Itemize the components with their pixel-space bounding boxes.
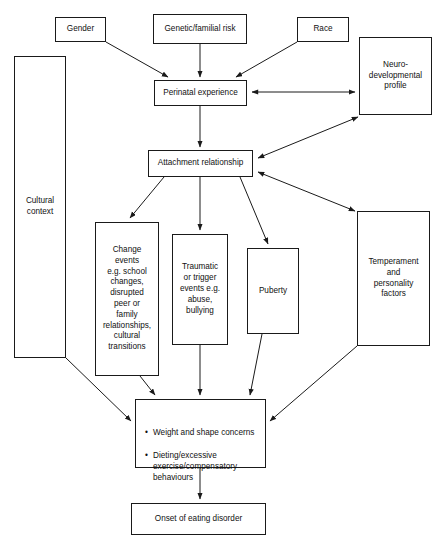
node-change-events[interactable]: Change events e.g. school changes, disru… bbox=[95, 222, 159, 376]
node-puberty[interactable]: Puberty bbox=[247, 248, 299, 334]
diagram-canvas: Gender Genetic/familial risk Race Neuro-… bbox=[0, 0, 443, 546]
concerns-list: Weight and shape concerns Dieting/excess… bbox=[144, 417, 258, 497]
node-race[interactable]: Race bbox=[297, 17, 349, 42]
concerns-item: Dieting/excessive exercise/compensatory … bbox=[153, 451, 258, 484]
node-onset-of-eating-disorder[interactable]: Onset of eating disorder bbox=[131, 503, 266, 535]
node-neurodevelopmental-profile[interactable]: Neuro- developmental profile bbox=[359, 37, 432, 115]
node-weight-shape-concerns[interactable]: Weight and shape concerns Dieting/excess… bbox=[135, 399, 266, 468]
edge-temperament-concerns bbox=[270, 346, 357, 421]
node-temperament-personality[interactable]: Temperament and personality factors bbox=[357, 211, 430, 346]
node-gender[interactable]: Gender bbox=[55, 17, 106, 42]
edge-race-perinatal bbox=[236, 42, 297, 77]
edge-change-concerns bbox=[140, 376, 155, 395]
edge-gender-perinatal bbox=[106, 42, 168, 77]
node-perinatal-experience[interactable]: Perinatal experience bbox=[154, 80, 247, 106]
node-cultural-context[interactable]: Cultural context bbox=[14, 56, 66, 358]
edge-puberty-concerns bbox=[250, 334, 262, 395]
node-traumatic-events[interactable]: Traumatic or trigger events e.g. abuse, … bbox=[172, 234, 228, 345]
edge-attachment-temperament bbox=[258, 172, 355, 211]
node-genetic-familial-risk[interactable]: Genetic/familial risk bbox=[153, 14, 247, 44]
edge-attachment-change bbox=[130, 177, 164, 218]
edge-neurodev-attachment bbox=[258, 117, 358, 158]
node-attachment-relationship[interactable]: Attachment relationship bbox=[148, 150, 253, 177]
edge-attachment-puberty bbox=[240, 177, 268, 244]
concerns-item: Weight and shape concerns bbox=[153, 428, 258, 439]
